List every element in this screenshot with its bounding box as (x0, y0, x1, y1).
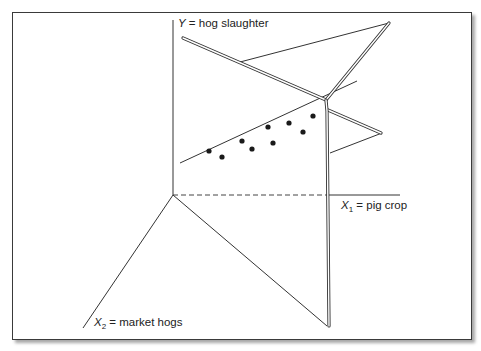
plane-lower-edge (173, 195, 327, 326)
data-point (219, 154, 224, 159)
right-plane-edge (328, 110, 381, 133)
data-point (206, 148, 211, 153)
upper-plane-fold-edges (183, 23, 389, 100)
data-point (239, 138, 244, 143)
data-point (265, 124, 270, 129)
data-point (249, 146, 254, 151)
data-points (206, 113, 315, 159)
data-point (310, 113, 315, 118)
data-point (270, 140, 275, 145)
vertical-plane-edge (326, 100, 329, 326)
x2-axis (83, 195, 173, 328)
data-point (300, 129, 305, 134)
x2-axis-label: X2 = market hogs (93, 316, 183, 331)
right-plane-lower-edge (330, 133, 382, 153)
x1-axis-label: X1 = pig crop (340, 199, 407, 214)
data-point (286, 120, 291, 125)
regression-diagram: Y = hog slaughter X1 = pig crop X2 = mar… (0, 0, 481, 351)
y-axis-label: Y = hog slaughter (178, 17, 269, 29)
